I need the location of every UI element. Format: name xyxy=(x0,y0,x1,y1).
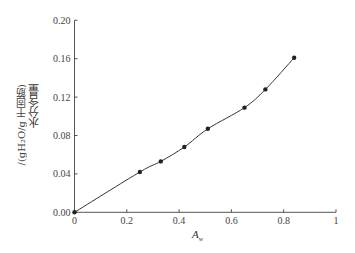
data-point-marker xyxy=(292,56,296,60)
data-point-marker xyxy=(182,145,186,149)
x-tick-label: 1 xyxy=(334,215,339,226)
data-point-marker xyxy=(206,127,210,131)
y-tick-label: 0.12 xyxy=(53,92,71,103)
y-tick-label: 0.00 xyxy=(53,207,71,218)
data-points xyxy=(72,56,296,215)
x-axis-label-main: A xyxy=(192,228,199,240)
x-axis-label-sub: w xyxy=(199,236,203,242)
x-tick-label: 0.4 xyxy=(173,215,186,226)
y-tick-label: 0.20 xyxy=(53,15,71,26)
data-point-marker xyxy=(242,105,246,109)
x-axis-label: Aw xyxy=(192,228,203,242)
x-tick-label: 0 xyxy=(72,215,77,226)
y-axis-label: 水分含量 /(gH₂O/g 干固筋) xyxy=(14,84,48,194)
y-tick-label: 0.16 xyxy=(53,53,71,64)
y-tick-label: 0.08 xyxy=(53,130,71,141)
x-tick-label: 0.6 xyxy=(225,215,238,226)
y-axis: 0.000.040.080.120.160.20 xyxy=(53,15,78,218)
data-point-marker xyxy=(263,87,267,91)
y-axis-label-unit: /(gH₂O/g 干固筋) xyxy=(14,84,29,165)
x-tick-label: 0.2 xyxy=(121,215,134,226)
data-point-marker xyxy=(138,170,142,174)
data-point-marker xyxy=(159,159,163,163)
x-axis: 00.20.40.60.81 xyxy=(72,209,339,226)
data-point-marker xyxy=(72,210,76,214)
sorption-isotherm-chart: 0.000.040.080.120.160.20 00.20.40.60.81 xyxy=(0,0,355,253)
x-tick-label: 0.8 xyxy=(277,215,290,226)
y-axis-label-main: 水分含量 xyxy=(27,84,43,128)
data-curve xyxy=(75,58,295,213)
y-tick-label: 0.04 xyxy=(53,168,71,179)
